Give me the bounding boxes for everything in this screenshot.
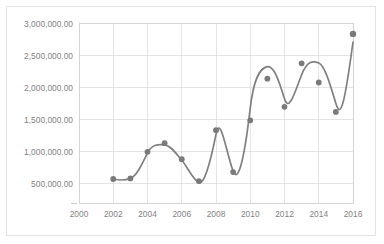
chart-plot: 3,000,000.00 2,500,000.00 2,000,000.00 1… [7, 7, 377, 237]
x-tick-label: 2016 [344, 209, 363, 219]
x-tick-label: 2012 [275, 209, 294, 219]
y-tick-label: 2,500,000.00 [24, 51, 73, 61]
y-tick-label: 3,000,000.00 [24, 19, 73, 29]
x-tick-label: 2010 [241, 209, 260, 219]
data-point-marker [162, 140, 168, 146]
y-tick-label: 2,000,000.00 [24, 83, 73, 93]
data-point-marker [145, 149, 151, 155]
data-point-marker [230, 169, 236, 175]
x-tick-label: 2000 [70, 209, 89, 219]
data-point-marker [282, 104, 288, 110]
x-tick-label: 2014 [309, 209, 328, 219]
y-tick-label: 1,500,000.00 [24, 115, 73, 125]
data-point-marker [110, 176, 116, 182]
series-line [113, 42, 353, 183]
y-axis-tick-labels: 3,000,000.00 2,500,000.00 2,000,000.00 1… [24, 19, 73, 189]
chart-figure: 3,000,000.00 2,500,000.00 2,000,000.00 1… [0, 0, 384, 244]
data-point-marker [127, 176, 133, 182]
y-tick-label: 1,000,000.00 [24, 147, 73, 157]
data-point-marker [179, 156, 185, 162]
data-point-marker [350, 31, 356, 37]
vertical-gridlines [113, 23, 319, 203]
data-point-marker [213, 127, 219, 133]
y-tick-label: 500,000.00 [31, 179, 73, 189]
chart-frame: 3,000,000.00 2,500,000.00 2,000,000.00 1… [6, 6, 376, 236]
x-tick-label: 2002 [104, 209, 123, 219]
data-point-marker [264, 76, 270, 82]
data-point-marker [196, 178, 202, 184]
x-tick-label: 2004 [138, 209, 157, 219]
data-point-marker [247, 117, 253, 123]
x-tick-label: 2006 [172, 209, 191, 219]
data-point-marker [316, 80, 322, 86]
data-point-marker [299, 60, 305, 66]
x-axis-tick-labels: 2000 2002 2004 2006 2008 2010 2012 2014 … [70, 209, 363, 219]
x-tick-label: 2008 [207, 209, 226, 219]
data-point-marker [333, 109, 339, 115]
